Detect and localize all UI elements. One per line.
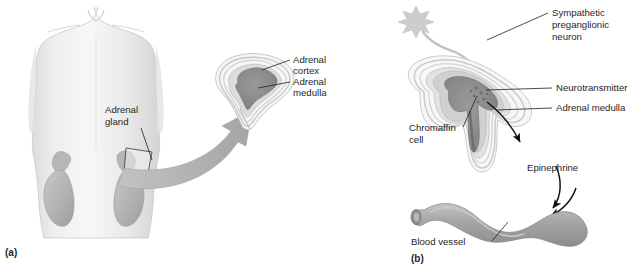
panel-b-marker: (b) bbox=[411, 253, 424, 264]
label-adrenal-cortex-line2: cortex bbox=[293, 65, 319, 76]
label-chromaffin-cell-line1: Chromaffin bbox=[409, 122, 456, 133]
label-adrenal-cortex-line1: Adrenal bbox=[293, 54, 326, 65]
label-epinephrine: Epinephrine bbox=[527, 162, 578, 173]
label-neurotransmitter: Neurotransmitter bbox=[556, 82, 628, 93]
label-blood-vessel: Blood vessel bbox=[411, 236, 465, 247]
vessel-lumen bbox=[414, 212, 419, 221]
label-adrenal-medulla-line2: medulla bbox=[293, 87, 327, 98]
panel-a-marker: (a) bbox=[5, 247, 17, 258]
label-adrenal-gland-line2: gland bbox=[105, 116, 128, 127]
label-sympathetic-neuron-line2: preganglionic bbox=[552, 19, 609, 30]
label-adrenal-medulla-line1: Adrenal bbox=[293, 76, 326, 87]
figure-root: Adrenal cortex Adrenal medulla Adrenal g… bbox=[0, 0, 639, 275]
label-sympathetic-neuron-line3: neuron bbox=[552, 31, 582, 42]
label-adrenal-medulla-b: Adrenal medulla bbox=[556, 102, 626, 113]
label-sympathetic-neuron-line1: Sympathetic bbox=[552, 7, 605, 18]
label-adrenal-gland-line1: Adrenal bbox=[105, 104, 138, 115]
label-chromaffin-cell-line2: cell bbox=[409, 134, 423, 145]
anatomy-figure-svg: Adrenal cortex Adrenal medulla Adrenal g… bbox=[0, 0, 639, 275]
